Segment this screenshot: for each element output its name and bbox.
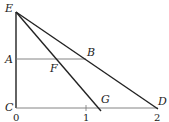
- tick-label-0: 0: [13, 112, 19, 122]
- tick-label-2: 2: [154, 112, 160, 122]
- label-G: G: [101, 93, 110, 106]
- label-A: A: [4, 53, 13, 66]
- label-B: B: [86, 46, 95, 59]
- geometry-diagram: E A B F C G D 0 1 2: [0, 0, 169, 122]
- label-D: D: [157, 95, 167, 108]
- tick-label-1: 1: [83, 112, 89, 122]
- label-E: E: [4, 2, 13, 15]
- label-F: F: [49, 62, 58, 75]
